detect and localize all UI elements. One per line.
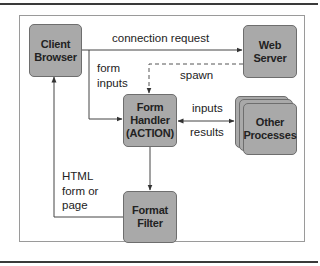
spawn-label: spawn — [180, 68, 213, 83]
web-server-node: Web Server — [243, 25, 297, 78]
other-processes-node: Other Processes — [243, 103, 297, 155]
form-inputs-label: form inputs — [97, 61, 128, 90]
form-handler-node: Form Handler (ACTION) — [123, 94, 177, 147]
format-filter-node: Format Filter — [123, 191, 177, 243]
html-form-or-page-label: HTML form or page — [62, 169, 98, 213]
inputs-label: inputs — [192, 101, 223, 116]
client-browser-node: Client Browser — [29, 24, 82, 77]
connection-request-label: connection request — [112, 31, 209, 46]
results-label: results — [190, 125, 224, 140]
